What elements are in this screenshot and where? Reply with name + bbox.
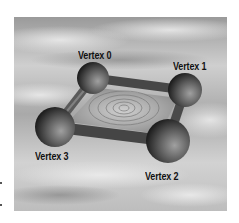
vertex-2-label: Vertex 2 bbox=[145, 170, 178, 182]
vertex-1-sphere bbox=[168, 73, 202, 107]
quad-vertex-figure: Vertex 0 Vertex 1 Vertex 2 Vertex 3 bbox=[14, 17, 227, 211]
vertex-0-label: Vertex 0 bbox=[78, 49, 111, 61]
figure-canvas bbox=[14, 17, 227, 211]
vertex-1-label: Vertex 1 bbox=[173, 60, 206, 72]
margin-tick-mark bbox=[0, 204, 2, 206]
vertex-3-sphere bbox=[35, 107, 75, 147]
margin-tick-mark bbox=[0, 182, 2, 184]
vertex-0-sphere bbox=[77, 62, 109, 94]
vertex-2-sphere bbox=[146, 119, 190, 163]
vertex-3-label: Vertex 3 bbox=[35, 150, 68, 162]
